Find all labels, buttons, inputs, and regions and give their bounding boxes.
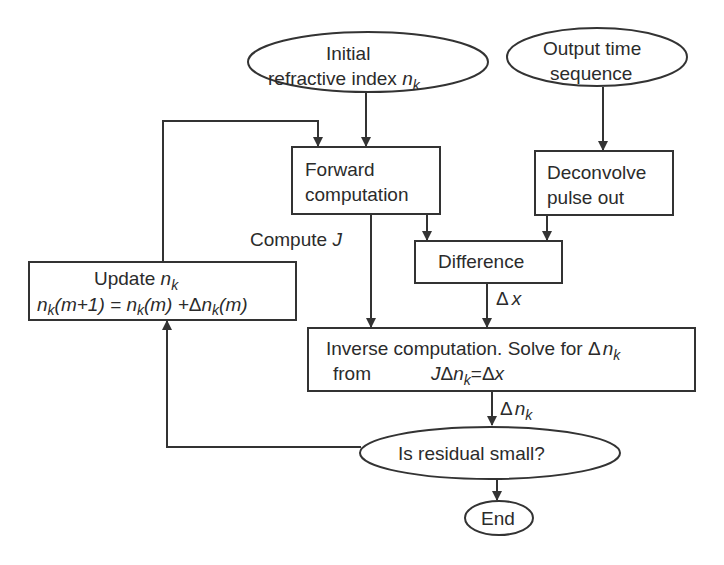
output-line2: sequence — [550, 63, 632, 84]
node-output-time-sequence: Output time sequence — [507, 28, 687, 86]
node-forward-computation: Forward computation — [292, 147, 440, 214]
flowchart: Initial refractive index nk Output time … — [0, 0, 724, 565]
node-inverse-computation: Inverse computation. Solve for Δnk from … — [308, 328, 695, 391]
residual-label: Is residual small? — [398, 443, 545, 464]
node-difference: Difference — [415, 241, 562, 283]
node-is-residual-small: Is residual small? — [360, 427, 620, 479]
deconvolve-line1: Deconvolve — [547, 162, 646, 183]
deconvolve-line2: pulse out — [547, 187, 625, 208]
node-initial-refractive-index: Initial refractive index nk — [248, 32, 488, 93]
inverse-line2-from: from — [333, 363, 371, 384]
forward-line1: Forward — [305, 159, 375, 180]
forward-line2: computation — [305, 184, 409, 205]
edge-label-delta-x: Δx — [496, 288, 523, 309]
output-line1: Output time — [543, 38, 641, 59]
initial-line1: Initial — [326, 43, 370, 64]
edge-label-compute-j: Compute J — [250, 229, 342, 250]
node-end: End — [465, 501, 533, 535]
difference-label: Difference — [438, 251, 524, 272]
end-label: End — [481, 508, 515, 529]
edge-label-delta-nk: Δnk — [500, 398, 533, 423]
node-deconvolve-pulse-out: Deconvolve pulse out — [535, 151, 673, 215]
node-update-nk: Update nk nk(m+1) = nk(m) +Δnk(m) — [29, 262, 296, 320]
